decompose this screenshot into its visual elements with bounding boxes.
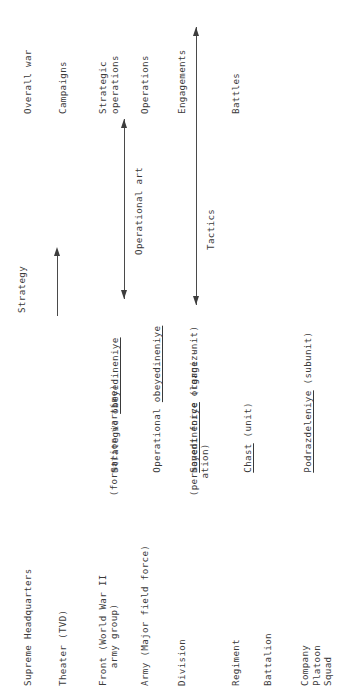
echelon-theater: Theater (TVD) xyxy=(57,610,69,686)
level-label-operational-art: Operational art xyxy=(133,164,144,258)
tactics-arrowhead-left-icon xyxy=(193,296,199,305)
echelon-platoon: Platoon xyxy=(311,645,323,686)
echelon-front-line2: army group) xyxy=(108,604,120,686)
term-soyedineniye-subline1: (permanent force organiz- xyxy=(188,349,200,508)
echelon-battalion: Battalion xyxy=(262,633,274,686)
echelon-supreme-headquarters: Supreme Headquarters xyxy=(22,568,34,686)
term-operational-obeyedineniye: Operational obeyedineniye xyxy=(139,326,174,508)
operational-art-arrowhead-left-icon xyxy=(121,290,127,299)
term-russian-word: obeyedineniye xyxy=(151,326,162,402)
term-chast: Chast (unit) xyxy=(230,402,265,508)
level-label-tactics: Tactics xyxy=(205,206,216,253)
echelon-regiment: Regiment xyxy=(230,639,242,686)
echelon-squad: Squad xyxy=(322,657,334,686)
activity-strategic-operations-line1: Strategic xyxy=(97,61,109,114)
term-russian-word: Chast xyxy=(242,443,253,472)
echelon-division: Division xyxy=(176,639,188,686)
activity-engagements: Engagements xyxy=(176,49,188,114)
tactics-arrowhead-right-icon xyxy=(193,27,199,36)
term-suffix: (subunit) xyxy=(302,332,313,391)
strategy-arrowhead-right-icon xyxy=(54,247,60,256)
term-soyedineniye-subline2: ation) xyxy=(199,443,211,508)
activity-battles: Battles xyxy=(230,73,242,114)
operational-art-arrow-line xyxy=(124,119,125,299)
activity-operations: Operations xyxy=(139,55,151,114)
activity-campaigns: Campaigns xyxy=(57,61,69,114)
tactics-arrow-line xyxy=(196,27,197,305)
operational-art-arrowhead-right-icon xyxy=(121,119,127,128)
echelon-company: Company xyxy=(299,645,311,686)
term-strategic-obeyedineniye-subline: (formation wartime) xyxy=(108,384,120,508)
activity-strategic-operations-line2: operations xyxy=(109,55,121,114)
term-podrazdeleniye: Podrazdeleniye (subunit) xyxy=(290,332,325,508)
echelon-army: Army (Major field force) xyxy=(139,545,151,686)
level-label-strategy: Strategy xyxy=(16,263,27,316)
strategy-arrow-line xyxy=(57,253,58,316)
rotated-page-wrapper: Supreme Headquarters Theater (TVD) Front… xyxy=(0,0,350,694)
echelon-front-line1: Front (World War II xyxy=(97,574,109,686)
term-prefix: Operational xyxy=(151,402,162,473)
term-suffix: (unit) xyxy=(242,402,253,443)
activity-overall-war: Overall war xyxy=(22,49,34,114)
term-russian-word: Podrazdeleniye xyxy=(302,390,313,472)
diagram-canvas: Supreme Headquarters Theater (TVD) Front… xyxy=(0,0,350,694)
